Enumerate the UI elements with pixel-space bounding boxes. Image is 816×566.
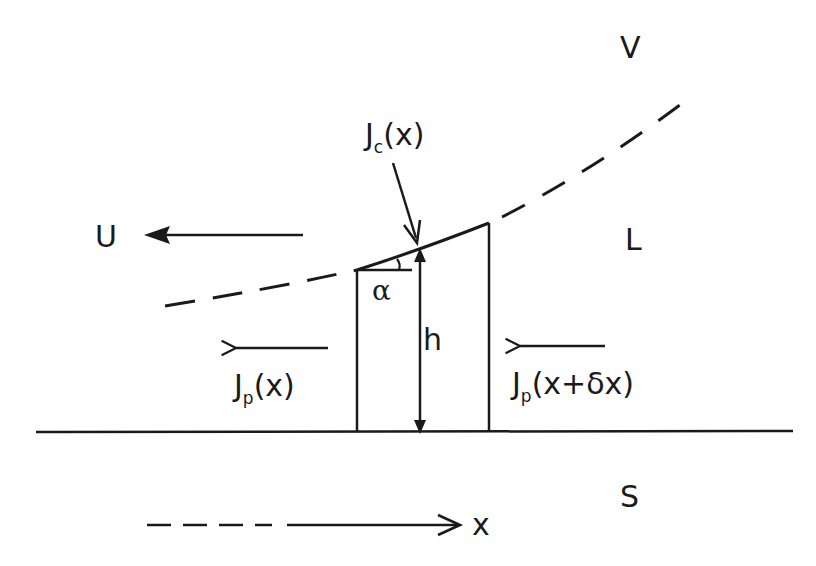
velocity-label: U bbox=[95, 219, 117, 254]
liquid-region-label: L bbox=[625, 222, 642, 257]
substrate-line bbox=[36, 431, 793, 432]
vapor-region-label: V bbox=[620, 30, 641, 65]
diagram-canvas: α h Jc(x) U Jp(x) Jp(x+δx) V L S x bbox=[0, 0, 816, 566]
interface-curve-left bbox=[165, 270, 357, 306]
x-axis-label: x bbox=[472, 507, 490, 542]
flux-left-label: Jp(x) bbox=[232, 368, 295, 408]
angle-label: α bbox=[372, 274, 391, 307]
condensation-arrow bbox=[393, 163, 420, 243]
diagram-svg: α h Jc(x) U Jp(x) Jp(x+δx) V L S x bbox=[0, 0, 816, 566]
interface-curve-right bbox=[502, 105, 680, 217]
velocity-arrow bbox=[144, 226, 303, 244]
condensation-flux-label: Jc(x) bbox=[363, 117, 424, 157]
solid-region-label: S bbox=[620, 479, 639, 514]
flux-right-label: Jp(x+δx) bbox=[510, 366, 634, 406]
x-axis-arrow bbox=[147, 515, 460, 535]
height-label: h bbox=[423, 322, 442, 357]
